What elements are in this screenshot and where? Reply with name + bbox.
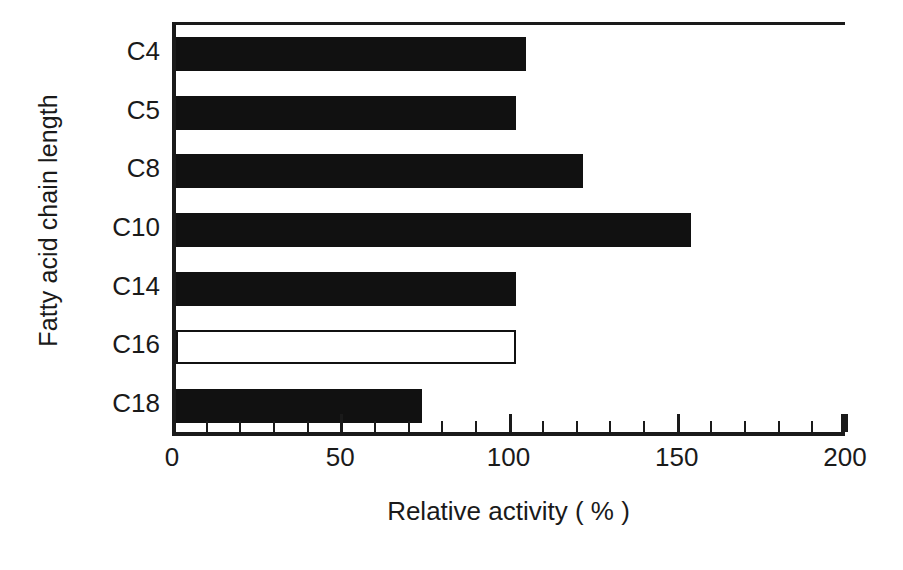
y-axis-title: Fatty acid chain length xyxy=(18,0,78,440)
x-tick-100 xyxy=(509,414,512,432)
x-tick-label-50: 50 xyxy=(326,442,355,473)
x-tick-10 xyxy=(206,421,208,432)
x-tick-80 xyxy=(441,421,443,432)
y-tick-label-c16: C16 xyxy=(112,327,160,361)
x-tick-70 xyxy=(408,421,410,432)
x-tick-label-100: 100 xyxy=(487,442,530,473)
y-tick-label-group: C4C5C8C10C14C16C18 xyxy=(78,22,166,432)
x-tick-180 xyxy=(778,421,780,432)
y-tick-label-c4: C4 xyxy=(127,34,160,68)
bars-layer xyxy=(176,25,845,432)
bar-c18 xyxy=(176,389,422,423)
y-tick-label-c5: C5 xyxy=(127,93,160,127)
plot-area xyxy=(172,22,845,432)
x-tick-140 xyxy=(643,421,645,432)
x-tick-label-200: 200 xyxy=(823,442,866,473)
y-tick-label-c18: C18 xyxy=(112,386,160,420)
x-tick-110 xyxy=(542,421,544,432)
chart-figure: Fatty acid chain length C4C5C8C10C14C16C… xyxy=(0,0,903,570)
x-tick-160 xyxy=(710,421,712,432)
x-tick-40 xyxy=(307,421,309,432)
x-tick-200 xyxy=(845,414,848,432)
y-tick-label-c8: C8 xyxy=(127,151,160,185)
x-tick-170 xyxy=(744,421,746,432)
x-tick-60 xyxy=(374,421,376,432)
x-axis-right-cap xyxy=(841,414,845,436)
bar-c4 xyxy=(176,37,526,71)
bar-c5 xyxy=(176,96,516,130)
x-tick-label-0: 0 xyxy=(165,442,179,473)
y-axis-title-text: Fatty acid chain length xyxy=(34,94,63,346)
bar-c14 xyxy=(176,272,516,306)
bar-c8 xyxy=(176,154,583,188)
x-tick-0 xyxy=(172,414,175,432)
x-tick-50 xyxy=(340,414,343,432)
x-tick-label-150: 150 xyxy=(655,442,698,473)
x-tick-label-group: 050100150200 xyxy=(0,442,903,482)
x-axis-line xyxy=(172,432,845,436)
x-tick-130 xyxy=(609,421,611,432)
y-tick-label-c10: C10 xyxy=(112,210,160,244)
x-tick-30 xyxy=(273,421,275,432)
x-axis-title: Relative activity ( % ) xyxy=(172,496,845,527)
x-tick-190 xyxy=(811,421,813,432)
x-tick-150 xyxy=(677,414,680,432)
bar-c16 xyxy=(176,330,516,364)
x-tick-90 xyxy=(475,421,477,432)
bar-c10 xyxy=(176,213,691,247)
x-tick-120 xyxy=(576,421,578,432)
y-tick-label-c14: C14 xyxy=(112,269,160,303)
x-tick-20 xyxy=(239,421,241,432)
